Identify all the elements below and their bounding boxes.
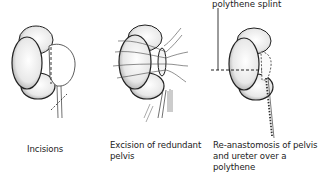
caption-reanastomosis-line3: nephrostomy tube [213, 173, 330, 174]
caption-reanastomosis-line2: and ureter over a polythene [213, 151, 330, 173]
kidney-excision-illustration [113, 25, 188, 122]
caption-incisions: Incisions [27, 144, 63, 155]
kidney-incisions-illustration [12, 26, 75, 118]
kidney-reanastomosis-illustration [211, 8, 274, 138]
caption-excision-line2: pelvis [110, 151, 201, 162]
caption-incisions-text: Incisions [27, 144, 63, 154]
caption-reanastomosis-line1: Re-anastomosis of pelvis [213, 140, 330, 151]
caption-excision-line1: Excision of redundant [110, 140, 201, 151]
polythene-splint-label: polythene splint [212, 0, 281, 9]
caption-reanastomosis: Re-anastomosis of pelvis and ureter over… [213, 140, 330, 174]
caption-excision: Excision of redundant pelvis [110, 140, 201, 162]
